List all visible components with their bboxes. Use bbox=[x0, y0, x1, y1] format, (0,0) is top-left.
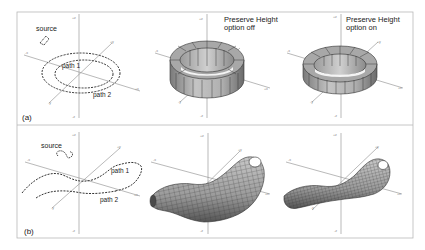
axis-label-plus-z: +z bbox=[199, 17, 203, 21]
axis-label-plus-y: +y bbox=[377, 40, 381, 44]
panel-a: +z -z -x +x +y -y source path 1 path 2 (… bbox=[22, 14, 403, 122]
axis-label-minus-x: -x bbox=[27, 158, 30, 162]
panel-a-ring-height-on: +z -z -x +x +y -y Pres bbox=[287, 14, 403, 118]
axis-label-minus-y: -y bbox=[311, 206, 314, 210]
axis-label-plus-z: +z bbox=[333, 15, 337, 19]
axis-label-minus-x: -x bbox=[287, 49, 290, 53]
path-2-label: path 2 bbox=[93, 91, 111, 99]
axis-label-plus-z: +z bbox=[72, 133, 76, 137]
axis-label-minus-z: -z bbox=[72, 115, 75, 119]
path-1-label: path 1 bbox=[111, 167, 129, 175]
panel-a-label: (a) bbox=[22, 113, 32, 122]
axis-label-plus-y: +y bbox=[110, 40, 114, 44]
axis-label-plus-x: +x bbox=[135, 87, 139, 91]
panel-b: +z -z -x +x +y -y source path 1 path 2 (… bbox=[22, 132, 402, 236]
source-label: source bbox=[36, 25, 57, 32]
path-1-label: path 1 bbox=[62, 62, 80, 70]
panel-b-label: (b) bbox=[24, 227, 34, 236]
axis-label-minus-y: -y bbox=[51, 206, 54, 210]
axis-label-plus-y: +y bbox=[117, 145, 121, 149]
panel-b-swept-surface-height-on: +z -z -x +x +y -y bbox=[284, 133, 402, 234]
caption-height-off-line2: option off bbox=[224, 23, 256, 32]
axis-label-minus-y: -y bbox=[48, 101, 51, 105]
path-2-label: path 2 bbox=[100, 196, 118, 204]
axis-label-plus-x: +x bbox=[397, 192, 401, 196]
axis-label-minus-x: -x bbox=[155, 49, 158, 53]
axis-label-minus-z: -z bbox=[200, 229, 203, 233]
axis-label-plus-y: +y bbox=[238, 148, 242, 152]
axis-label-minus-y: -y bbox=[178, 100, 181, 104]
axis-label-plus-z: +z bbox=[200, 134, 204, 138]
panel-b-paths-plot: +z -z -x +x +y -y source path 1 path 2 (… bbox=[22, 132, 142, 236]
axis-label-plus-x: +x bbox=[264, 87, 268, 91]
axis-label-plus-y: +y bbox=[375, 145, 379, 149]
caption-height-on-line2: option on bbox=[346, 23, 377, 32]
axis-label-minus-z: -z bbox=[200, 114, 203, 118]
panel-a-ring-height-off: +z -z -x +x -y bbox=[155, 14, 279, 118]
axis-label-plus-x: +x bbox=[134, 193, 138, 197]
panel-b-swept-surface-height-off: +z -z -x +x +y bbox=[150, 133, 270, 234]
axis-label-minus-z: -z bbox=[334, 114, 337, 118]
axis-label-plus-x: +x bbox=[265, 192, 269, 196]
axis-label-minus-y: -y bbox=[310, 100, 313, 104]
axis-label-minus-x: -x bbox=[25, 51, 28, 55]
source-shape-icon bbox=[40, 36, 49, 45]
figure: +z -z -x +x +y -y source path 1 path 2 (… bbox=[0, 0, 425, 250]
axis-label-minus-z: -z bbox=[72, 229, 75, 233]
source-shape-icon bbox=[57, 151, 73, 158]
axis-label-plus-z: +z bbox=[72, 16, 76, 20]
axis-label-minus-x: -x bbox=[153, 158, 156, 162]
panel-a-paths-plot: +z -z -x +x +y -y source path 1 path 2 (… bbox=[22, 14, 140, 122]
axis-label-plus-z: +z bbox=[333, 133, 337, 137]
axis-label-plus-x: +x bbox=[398, 86, 402, 90]
axis-label-minus-x: -x bbox=[288, 158, 291, 162]
source-label: source bbox=[41, 142, 62, 149]
axis-label-minus-z: -z bbox=[334, 229, 337, 233]
